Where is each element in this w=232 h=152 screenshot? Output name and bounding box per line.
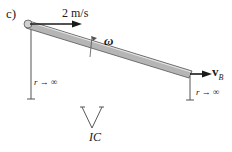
radius-right-label: r → ∞ <box>196 87 219 97</box>
velocity-arrow-b <box>190 71 212 78</box>
diagram-canvas <box>0 0 232 152</box>
angular-velocity-label: ω <box>104 33 113 49</box>
radius-left-label: r → ∞ <box>34 77 57 87</box>
velocity-b-subscript: B <box>219 73 224 82</box>
velocity-a-label: 2 m/s <box>62 6 88 21</box>
radius-line-left <box>27 24 35 99</box>
rod <box>24 20 192 78</box>
velocity-b-label: vB <box>212 64 223 82</box>
radius-line-right <box>186 76 194 100</box>
ic-label: IC <box>89 130 101 145</box>
ic-symbol-icon <box>80 107 104 128</box>
part-label: c) <box>6 6 16 22</box>
